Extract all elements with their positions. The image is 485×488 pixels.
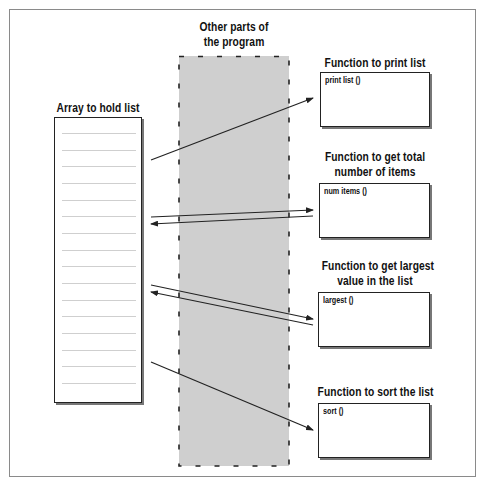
- array-box: [54, 117, 142, 403]
- print-list-function-box: print list (): [320, 72, 430, 127]
- array-slot: [62, 283, 136, 284]
- num-items-function-title: Function to get total number of items: [322, 150, 429, 180]
- array-slot: [62, 266, 136, 267]
- print-function-title-line1: Function to print list: [322, 56, 429, 71]
- array-slot: [62, 166, 136, 167]
- array-slot: [62, 300, 136, 301]
- largest-function-title: Function to get largest value in the lis…: [322, 259, 429, 289]
- largest-function-box: largest (): [318, 292, 430, 347]
- num-items-title-line1: Function to get total: [322, 150, 429, 165]
- largest-title-line2: value in the list: [322, 274, 429, 289]
- region-title-line1: Other parts of: [193, 20, 275, 35]
- array-slot: [62, 133, 136, 134]
- region-title: Other parts of the program: [193, 20, 275, 50]
- array-slot: [62, 383, 136, 384]
- array-slot: [62, 216, 136, 217]
- num-items-title-line2: number of items: [322, 165, 429, 180]
- array-title: Array to hold list: [49, 101, 147, 116]
- print-function-title: Function to print list: [322, 56, 429, 71]
- largest-title-line1: Function to get largest: [322, 259, 429, 274]
- array-slot: [62, 316, 136, 317]
- array-slot: [62, 250, 136, 251]
- sort-label: sort (): [323, 406, 343, 416]
- print-list-label: print list (): [325, 75, 360, 85]
- array-slot: [62, 333, 136, 334]
- region-title-line2: the program: [193, 35, 275, 50]
- array-slot: [62, 200, 136, 201]
- array-slot: [62, 350, 136, 351]
- other-program-region: [179, 56, 289, 466]
- sort-function-box: sort (): [318, 403, 430, 458]
- largest-label: largest (): [323, 295, 354, 305]
- array-slot: [62, 183, 136, 184]
- num-items-function-box: num items (): [319, 183, 430, 238]
- sort-title-line1: Function to sort the list: [318, 385, 433, 400]
- array-slot: [62, 150, 136, 151]
- array-slot: [62, 233, 136, 234]
- array-slot: [62, 366, 136, 367]
- sort-function-title: Function to sort the list: [318, 385, 433, 400]
- num-items-label: num items (): [324, 186, 367, 196]
